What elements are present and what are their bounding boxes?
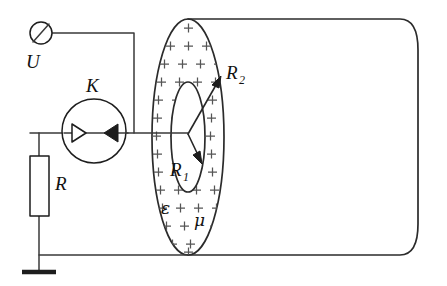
inner-radius-arrowhead bbox=[193, 151, 202, 164]
resistor-box bbox=[30, 156, 49, 216]
voltage-terminal[interactable] bbox=[30, 22, 52, 44]
cylinder-outline bbox=[188, 19, 418, 255]
label-inner-radius-subscript: 1 bbox=[183, 170, 189, 184]
label-outer-radius: R bbox=[225, 62, 238, 83]
label-permittivity: ε bbox=[161, 198, 170, 218]
cylinder-body bbox=[188, 19, 418, 255]
label-voltage-source: U bbox=[26, 51, 41, 72]
diagram-canvas: U K R R 1 R 2 ε μ bbox=[0, 0, 447, 286]
diagram-labels: U K R R 1 R 2 ε μ bbox=[26, 51, 245, 230]
label-inner-radius: R bbox=[169, 159, 182, 180]
outer-radius-arrow-line bbox=[188, 85, 216, 134]
inner-radius-arrow-line bbox=[188, 134, 198, 155]
label-permeability: μ bbox=[194, 210, 205, 230]
outer-ellipse-shape bbox=[152, 19, 224, 255]
resistor[interactable] bbox=[30, 156, 49, 216]
label-outer-radius-subscript: 2 bbox=[239, 73, 245, 87]
galvanometer[interactable] bbox=[62, 99, 128, 163]
circuit-diagram-figure: U K R R 1 R 2 ε μ bbox=[0, 0, 447, 286]
outer-ellipse bbox=[152, 19, 224, 255]
label-resistor: R bbox=[54, 173, 67, 194]
label-meter: K bbox=[85, 75, 100, 96]
